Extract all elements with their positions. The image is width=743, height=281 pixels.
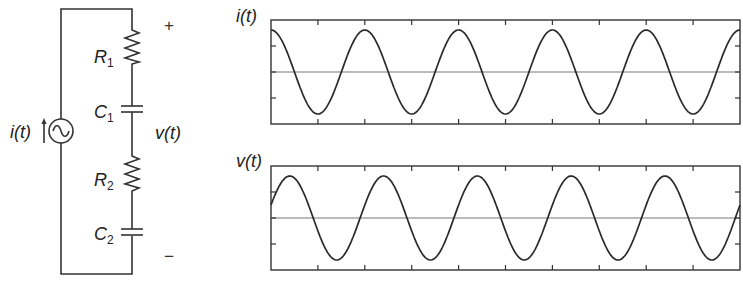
wire-left-bottom bbox=[61, 143, 132, 274]
c1-label: C1 bbox=[94, 102, 114, 125]
current-plot: i(t) bbox=[236, 6, 740, 124]
c2-label: C2 bbox=[94, 224, 114, 247]
r1-label: R1 bbox=[94, 47, 114, 70]
resistor-r1-icon bbox=[125, 28, 139, 106]
voltage-plot-ylabel: v(t) bbox=[236, 151, 262, 171]
voltage-plot: v(t) bbox=[236, 151, 740, 270]
plus-sign: + bbox=[164, 16, 174, 35]
resistor-r2-icon bbox=[125, 154, 139, 229]
voltage-label: v(t) bbox=[155, 123, 181, 143]
source-label: i(t) bbox=[10, 122, 31, 142]
current-arrow-icon bbox=[42, 118, 47, 124]
r2-label: R2 bbox=[94, 170, 114, 193]
ac-current-source-icon bbox=[42, 118, 74, 143]
circuit-diagram: i(t) R1 C1 R2 C2 v(t) + − bbox=[10, 9, 181, 274]
capacitor-c2-icon bbox=[121, 229, 143, 235]
figure: i(t) R1 C1 R2 C2 v(t) + − i(t) v(t) bbox=[0, 0, 743, 281]
capacitor-c1-icon bbox=[121, 106, 143, 154]
minus-sign: − bbox=[164, 247, 174, 266]
current-plot-ylabel: i(t) bbox=[236, 6, 257, 26]
